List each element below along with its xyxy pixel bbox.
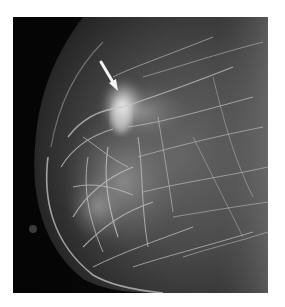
mammogram-image	[13, 17, 268, 293]
image-canvas	[0, 0, 285, 307]
small-nodule	[29, 225, 37, 233]
mammogram-rendering	[13, 17, 268, 293]
